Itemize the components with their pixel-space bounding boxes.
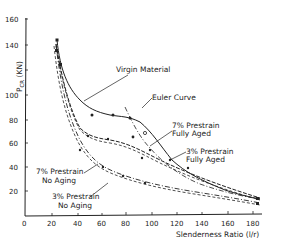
svg-text:140: 140 — [5, 42, 18, 50]
series-virgin-material — [57, 40, 260, 199]
chart: 160 140 100 80 60 40 20 PCR (KN) 0 20 40… — [0, 0, 292, 248]
svg-text:140: 140 — [195, 220, 208, 228]
axes — [25, 18, 262, 216]
label-3pct-no-aging-2: No Aging — [58, 201, 92, 210]
label-7pct-no-aging-2: No Aging — [42, 176, 76, 185]
label-7pct-no-aging-1: 7% Prestrain — [36, 167, 84, 176]
y-axis-labels: 160 140 100 80 60 40 20 — [5, 16, 18, 196]
svg-text:100: 100 — [5, 92, 18, 100]
svg-text:100: 100 — [145, 220, 158, 228]
label-virgin-material: Virgin Material — [116, 65, 170, 74]
x-axis-title: Slenderness Ratio (l/r) — [176, 230, 259, 239]
label-7pct-fully-aged-2: Fully Aged — [172, 129, 211, 138]
data-markers — [55, 39, 259, 206]
x-axis-labels: 0 20 40 60 80 100 120 140 160 180 — [22, 220, 259, 228]
svg-text:160: 160 — [221, 220, 234, 228]
annotations: Virgin Material Euler Curve 7% Prestrain… — [36, 65, 234, 210]
svg-text:40: 40 — [73, 220, 82, 228]
svg-text:160: 160 — [5, 16, 18, 24]
svg-text:20: 20 — [9, 188, 18, 196]
label-3pct-no-aging-1: 3% Prestrain — [52, 192, 100, 201]
label-3pct-fully-aged-2: Fully Aged — [186, 155, 225, 164]
svg-text:80: 80 — [121, 220, 130, 228]
y-axis-title: PCR (KN) — [15, 61, 25, 92]
svg-text:180: 180 — [246, 220, 259, 228]
svg-text:80: 80 — [9, 117, 18, 125]
label-euler-curve: Euler Curve — [152, 93, 196, 102]
svg-text:40: 40 — [9, 164, 18, 172]
svg-text:60: 60 — [9, 140, 18, 148]
svg-text:20: 20 — [47, 220, 56, 228]
svg-text:60: 60 — [97, 220, 106, 228]
svg-text:0: 0 — [22, 220, 26, 228]
svg-text:120: 120 — [170, 220, 183, 228]
